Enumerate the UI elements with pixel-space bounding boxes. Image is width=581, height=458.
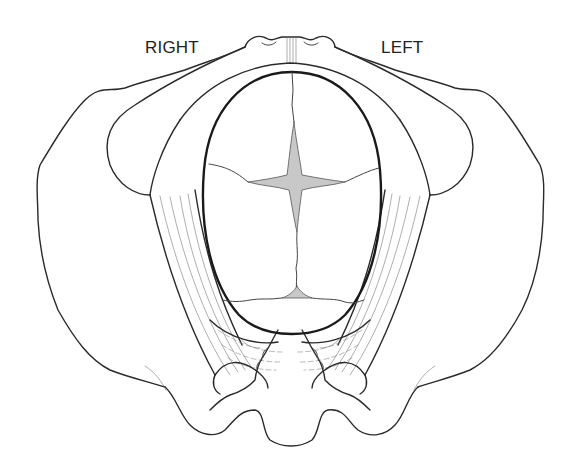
ischial-spines — [240, 338, 340, 348]
skull-sutures — [209, 72, 379, 303]
ligaments-left — [298, 190, 435, 394]
pelvis-outline — [37, 47, 544, 446]
ligaments-right — [145, 190, 282, 394]
posterior-fontanelle — [282, 286, 312, 298]
pelvis-diagram — [0, 0, 581, 458]
sacrum — [210, 330, 370, 410]
anterior-fontanelle — [248, 122, 345, 232]
pubic-symphysis — [245, 36, 335, 63]
